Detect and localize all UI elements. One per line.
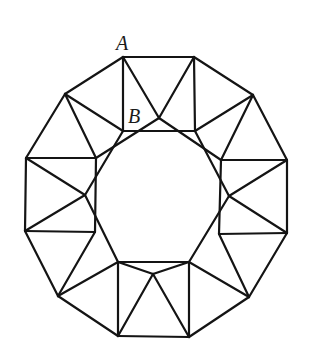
edge-segment [229,160,287,196]
edge-segment [153,262,189,274]
edge-segment [26,94,65,158]
edge-segment [153,274,189,337]
edge-segment [249,233,287,297]
edge-segment [26,158,85,195]
edge-segment [253,95,287,160]
edge-segment [195,131,229,196]
edge-segment [58,296,118,336]
edge-segment [95,158,96,232]
edge-segment [219,233,287,234]
edge-segment [25,231,58,296]
edge-segment [85,131,123,195]
edge-segment [159,118,221,160]
edge-segment [159,57,194,118]
vertex-label-b: B [128,106,140,126]
edge-segment [229,196,287,233]
edge-segment [219,160,221,234]
edge-segment [194,57,195,131]
edge-segment [25,195,85,231]
vertex-label-a: A [116,33,128,53]
edge-segment [85,195,118,262]
edge-segment [25,231,95,232]
edge-segment [118,262,153,274]
edge-segment [25,158,26,231]
edge-segment [65,57,123,94]
edge-segment [189,196,229,262]
edge-segment [189,297,249,337]
diagram-edges [25,57,287,337]
edge-segment [118,274,153,336]
edge-segment [194,57,253,95]
dodecagon-tiling-diagram [0,0,309,362]
edge-segment [118,336,189,337]
